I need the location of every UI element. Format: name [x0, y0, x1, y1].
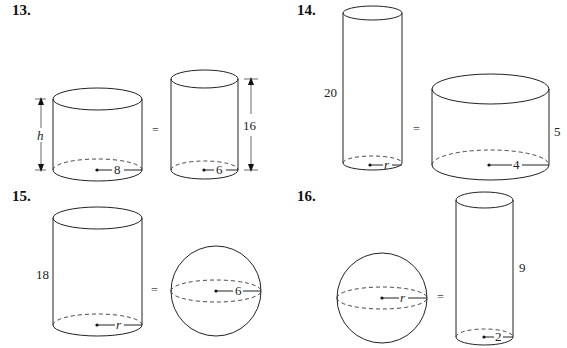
problem-number: 15.: [12, 188, 31, 204]
radius-label: 6: [235, 283, 242, 298]
volume-diagrams: 13. 8 h = 6: [0, 0, 567, 348]
height-label: 9: [519, 260, 526, 275]
cylinder-right: 4 5: [432, 74, 561, 180]
equals-sign: =: [413, 122, 420, 136]
height-label: 20: [324, 85, 337, 100]
sphere-left: r: [337, 253, 427, 343]
sphere-right: 6: [171, 246, 261, 336]
height-label: 5: [554, 124, 561, 139]
equals-sign: =: [152, 123, 159, 137]
cylinder-right: 2 9: [456, 192, 526, 345]
equals-sign: =: [151, 283, 158, 297]
radius-label: 2: [495, 329, 502, 344]
cylinder-right: 6 16: [171, 70, 258, 179]
radius-label: r: [400, 290, 406, 305]
height-label: 16: [243, 118, 257, 133]
equals-sign: =: [437, 290, 444, 304]
problem-15: 15. r 18 = 6: [12, 188, 261, 336]
radius-label: 4: [513, 157, 520, 172]
radius-label: 6: [216, 162, 223, 177]
problem-number: 16.: [297, 188, 316, 204]
radius-label: r: [116, 317, 122, 332]
problem-number: 14.: [297, 2, 316, 18]
problem-14: 14. r 20 = 4 5: [297, 2, 561, 180]
height-label: h: [37, 128, 44, 143]
problem-16: 16. r = 2 9: [297, 188, 526, 345]
problem-13: 13. 8 h = 6: [12, 2, 258, 181]
radius-label: r: [384, 157, 390, 172]
cylinder-left: 8 h: [35, 88, 142, 181]
cylinder-left: r 18: [36, 207, 142, 336]
problem-number: 13.: [12, 2, 31, 18]
height-label: 18: [36, 267, 49, 282]
radius-label: 8: [114, 162, 121, 177]
cylinder-left: r 20: [324, 6, 402, 172]
